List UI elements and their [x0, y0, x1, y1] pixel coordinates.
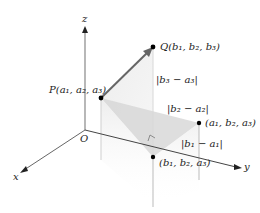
- dz-label: |b₃ − a₃|: [156, 75, 198, 85]
- point-p: [99, 96, 104, 101]
- point-p-label: P(a₁, a₂, a₃): [49, 85, 106, 95]
- corner1-label: (a₁, b₂, a₃): [205, 118, 256, 128]
- point-corner2: [151, 155, 155, 159]
- z-axis: [82, 26, 88, 130]
- x-axis: [20, 130, 85, 173]
- origin-label: O: [80, 134, 88, 144]
- point-q-label: Q(b₁, b₂, b₃): [160, 42, 220, 52]
- horizontal-triangle: [101, 98, 199, 205]
- x-axis-label: x: [13, 172, 19, 182]
- point-corner1: [197, 121, 201, 125]
- point-q: [151, 45, 156, 50]
- dx-label: |b₁ − a₁|: [181, 139, 223, 149]
- dy-label: |b₂ − a₂|: [167, 104, 209, 114]
- distance-diagram: z x y O P(a₁, a₂, a₃) Q(b₁, b₂, b₃) (a₁,…: [0, 0, 260, 213]
- diagram-canvas: [0, 0, 260, 213]
- z-axis-label: z: [82, 14, 87, 24]
- corner2-label: (b₁, b₂, a₃): [159, 158, 210, 168]
- y-axis-label: y: [244, 162, 250, 172]
